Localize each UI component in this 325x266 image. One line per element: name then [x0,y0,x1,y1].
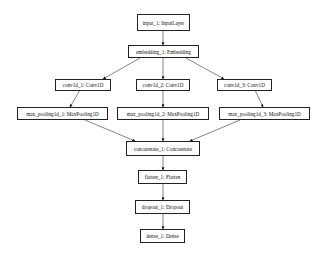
edge-conv1-pool1 [70,90,80,107]
edge-embedding-conv1 [103,58,140,79]
node-conv1d-1: conv1d_1: Conv1D [55,79,111,91]
node-max-pooling-3: max_pooling1d_3: MaxPooling1D [219,107,310,120]
node-concatenate: concatenate_1: Concatenate [126,141,200,156]
edge-conv3-pool3 [255,90,263,107]
edge-pool3-concat [190,120,240,141]
node-dense: dense_1: Dense [140,229,185,243]
edge-pool1-concat [85,120,135,141]
node-max-pooling-1: max_pooling1d_1: MaxPooling1D [17,107,108,120]
node-conv1d-3: conv1d_3: Conv1D [217,79,272,91]
node-dropout: dropout_1: Dropout [135,200,190,214]
node-conv1d-2: conv1d_2: Conv1D [136,79,190,91]
node-max-pooling-2: max_pooling1d_2: MaxPooling1D [117,107,209,120]
edges-layer [0,0,325,266]
edge-embedding-conv3 [186,58,224,79]
node-embedding: embedding_1: Embedding [128,45,199,58]
node-input-layer: input_1: InputLayer [137,14,190,31]
node-flatten: flatten_1: Flatten [138,170,187,184]
